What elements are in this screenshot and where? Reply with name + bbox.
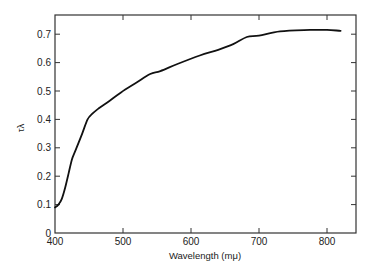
- x-axis-label: Wavelength (mμ): [169, 250, 241, 261]
- y-axis-label: τλ: [15, 124, 26, 133]
- y-tick-label: 0.7: [37, 29, 51, 40]
- plot-frame: [55, 15, 356, 233]
- y-tick-label: 0.2: [37, 171, 51, 182]
- x-tick-label: 800: [319, 236, 336, 247]
- x-tick-label: 700: [251, 236, 268, 247]
- y-axis-ticks: 00.10.20.30.40.50.60.7: [37, 29, 356, 239]
- y-tick-label: 0.3: [37, 142, 51, 153]
- y-tick-label: 0.6: [37, 57, 51, 68]
- chart: 400500600700800 00.10.20.30.40.50.60.7 W…: [0, 0, 371, 276]
- y-tick-label: 0.1: [37, 199, 51, 210]
- y-tick-label: 0.4: [37, 114, 51, 125]
- x-tick-label: 500: [115, 236, 132, 247]
- x-axis-ticks: 400500600700800: [47, 15, 336, 247]
- x-tick-label: 600: [183, 236, 200, 247]
- y-tick-label: 0: [45, 228, 51, 239]
- data-line: [55, 30, 341, 208]
- y-tick-label: 0.5: [37, 86, 51, 97]
